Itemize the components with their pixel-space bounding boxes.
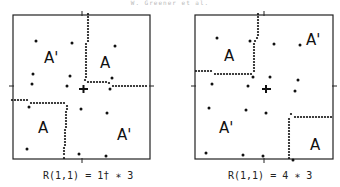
right-sample-points [205, 37, 302, 162]
region-label: A [224, 47, 235, 65]
right-caption: R(1,1) = 4 ∗ 3 [228, 170, 312, 182]
left-caption: R(1,1) = 1† ∗ 3 [43, 170, 133, 182]
region-label: A [310, 136, 321, 154]
left-panel: A' A A A' [9, 11, 154, 163]
region-label: A [100, 54, 111, 72]
region-label: A' [306, 31, 320, 49]
region-label: A' [117, 126, 131, 144]
region-label: A' [44, 49, 58, 67]
left-center-cross-icon [79, 85, 88, 93]
right-center-cross-icon [262, 85, 271, 93]
right-panel: A A' A' A [191, 11, 337, 163]
figure: A' A A A' [0, 0, 340, 187]
region-label: A [38, 119, 49, 137]
region-label: A' [219, 119, 233, 137]
